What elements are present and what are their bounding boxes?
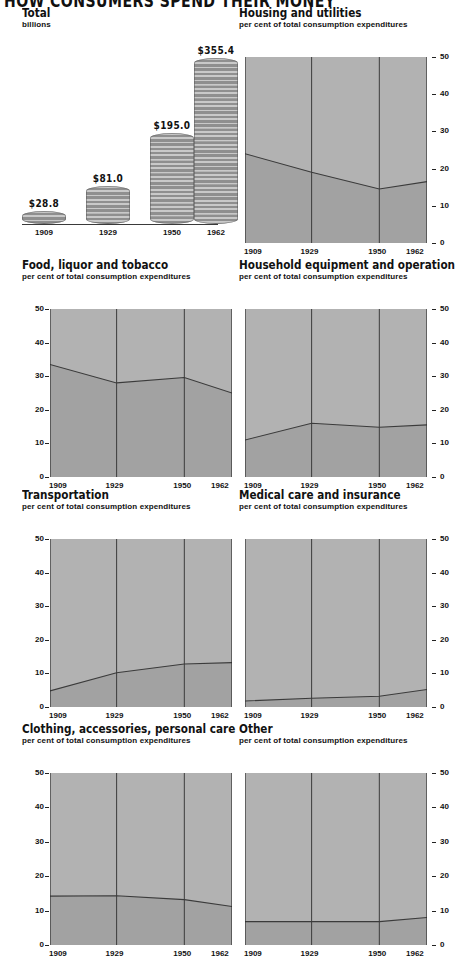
y-axis-tick-mark: [432, 477, 436, 478]
panel-food-liquor-and-tobacco: Food, liquor and tobacco per cent of tot…: [22, 258, 238, 488]
y-axis-tick-mark: [432, 94, 436, 95]
x-axis-tick-label: 1909: [49, 711, 67, 720]
x-axis-tick-label: 1909: [244, 949, 262, 958]
y-axis-tick-mark: [45, 911, 49, 912]
x-axis-tick-label: 1909: [244, 711, 262, 720]
x-axis-tick-label: 1929: [106, 711, 124, 720]
y-axis-tick-mark: [45, 443, 49, 444]
y-axis-tick-mark: [432, 376, 436, 377]
bar-coin-stack: [150, 133, 194, 224]
bar-x-axis-label: 1962: [202, 228, 230, 237]
y-axis-tick-label: 30: [26, 838, 44, 846]
y-axis-tick-mark: [432, 640, 436, 641]
x-axis-tick-label: 1929: [301, 247, 319, 256]
y-axis-tick-label: 40: [26, 339, 44, 347]
x-axis-tick-label: 1950: [173, 711, 191, 720]
y-axis-tick-label: 10: [440, 669, 449, 677]
y-axis-tick-label: 40: [26, 569, 44, 577]
y-axis-tick-label: 20: [26, 406, 44, 414]
y-axis-tick-mark: [45, 410, 49, 411]
y-axis-tick-label: 30: [440, 372, 449, 380]
y-axis-tick-mark: [45, 640, 49, 641]
bar-x-axis-label: 1950: [158, 228, 186, 237]
y-axis-tick-label: 10: [26, 439, 44, 447]
y-axis-tick-label: 20: [440, 165, 449, 173]
panel-other: Other per cent of total consumption expe…: [239, 722, 455, 957]
x-axis-tick-label: 1962: [211, 711, 229, 720]
y-axis-tick-label: 30: [440, 838, 449, 846]
area-plot: [245, 539, 427, 707]
y-axis-tick-mark: [45, 539, 49, 540]
x-axis-tick-label: 1950: [173, 949, 191, 958]
y-axis-tick-label: 50: [440, 535, 449, 543]
y-axis-tick-mark: [432, 807, 436, 808]
y-axis-tick-mark: [432, 410, 436, 411]
panel-title-food-liquor-and-tobacco: Food, liquor and tobacco: [22, 258, 223, 271]
y-axis-tick-label: 50: [440, 305, 449, 313]
area-plot: [50, 309, 232, 477]
bar-value-label: $195.0: [144, 119, 201, 131]
y-axis-tick-mark: [45, 309, 49, 310]
y-axis-tick-mark: [45, 343, 49, 344]
y-axis-tick-mark: [432, 443, 436, 444]
y-axis-tick-label: 30: [26, 602, 44, 610]
y-axis-tick-mark: [432, 876, 436, 877]
y-axis-tick-mark: [45, 606, 49, 607]
x-axis-tick-label: 1929: [301, 949, 319, 958]
panel-medical-care-and-insurance: Medical care and insurance per cent of t…: [239, 488, 455, 718]
y-axis-tick-mark: [432, 343, 436, 344]
y-axis-tick-mark: [432, 573, 436, 574]
panel-subtitle-clothing-accessories-personal-care: per cent of total consumption expenditur…: [22, 736, 238, 746]
y-axis-tick-label: 40: [440, 569, 449, 577]
x-axis-tick-label: 1909: [244, 247, 262, 256]
y-axis-tick-label: 40: [440, 90, 449, 98]
panel-subtitle-medical-care-and-insurance: per cent of total consumption expenditur…: [239, 502, 455, 512]
y-axis-tick-label: 50: [26, 535, 44, 543]
panel-title-household-equipment-and-operation: Household equipment and operation: [239, 258, 440, 271]
panel-title-clothing-accessories-personal-care: Clothing, accessories, personal care: [22, 722, 223, 735]
y-axis-tick-label: 50: [26, 769, 44, 777]
y-axis-tick-mark: [45, 376, 49, 377]
x-axis-tick-label: 1962: [211, 949, 229, 958]
y-axis-tick-label: 30: [26, 372, 44, 380]
y-axis-tick-label: 0: [440, 239, 444, 247]
panel-subtitle-household-equipment-and-operation: per cent of total consumption expenditur…: [239, 272, 455, 282]
y-axis-tick-label: 10: [440, 439, 449, 447]
y-axis-tick-label: 0: [26, 703, 44, 711]
panel-transportation: Transportation per cent of total consump…: [22, 488, 238, 718]
y-axis-tick-mark: [432, 169, 436, 170]
x-axis-tick-label: 1962: [406, 949, 424, 958]
y-axis-tick-mark: [45, 842, 49, 843]
y-axis-tick-mark: [432, 606, 436, 607]
y-axis-tick-label: 10: [26, 907, 44, 915]
y-axis-tick-label: 20: [440, 872, 449, 880]
y-axis-tick-mark: [432, 243, 436, 244]
panel-household-equipment-and-operation: Household equipment and operation per ce…: [239, 258, 455, 488]
bar-coin-stack: [194, 58, 238, 224]
area-plot: [245, 773, 427, 945]
y-axis-tick-mark: [432, 707, 436, 708]
y-axis-tick-label: 30: [440, 602, 449, 610]
y-axis-tick-mark: [45, 807, 49, 808]
area-plot: [50, 539, 232, 707]
y-axis-tick-mark: [432, 206, 436, 207]
y-axis-tick-label: 40: [440, 339, 449, 347]
panel-clothing-accessories-personal-care: Clothing, accessories, personal care per…: [22, 722, 238, 957]
x-axis-tick-label: 1950: [368, 711, 386, 720]
x-axis-tick-label: 1950: [368, 949, 386, 958]
y-axis-tick-label: 20: [26, 636, 44, 644]
x-axis-tick-label: 1929: [106, 949, 124, 958]
bar-chart-total: $28.81909$81.01929$195.01950$355.41962: [6, 28, 232, 242]
y-axis-tick-mark: [432, 539, 436, 540]
panel-total: Total billions $28.81909$81.01929$195.01…: [22, 6, 232, 254]
y-axis-tick-label: 0: [26, 473, 44, 481]
y-axis-tick-label: 50: [440, 769, 449, 777]
panel-subtitle-food-liquor-and-tobacco: per cent of total consumption expenditur…: [22, 272, 238, 282]
y-axis-tick-label: 10: [26, 669, 44, 677]
y-axis-tick-mark: [432, 911, 436, 912]
x-axis-tick-label: 1962: [406, 247, 424, 256]
y-axis-tick-mark: [45, 773, 49, 774]
y-axis-tick-label: 20: [440, 636, 449, 644]
bar-value-label: $28.8: [16, 197, 73, 209]
panel-housing-and-utilities: Housing and utilities per cent of total …: [239, 6, 455, 254]
